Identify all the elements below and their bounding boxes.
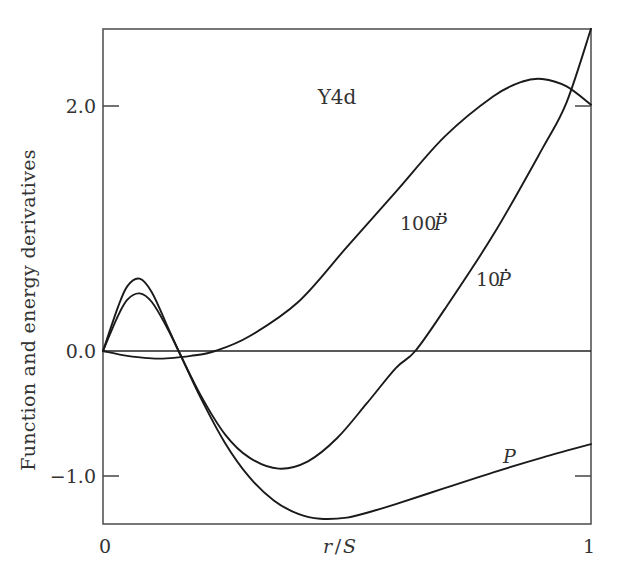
double-dot-2	[444, 213, 447, 216]
single-dot	[505, 269, 508, 272]
x-axis-label: r / S	[323, 535, 356, 557]
chart-canvas: 2.0 0.0 −1.0 0 1 r / S Y4d 100 P 10 P P	[0, 0, 626, 580]
label-10Pdot-num: 10	[476, 268, 500, 290]
label-100Pddot-var: P	[433, 212, 448, 234]
y-axis-label: Function and energy derivatives	[17, 100, 41, 520]
label-100Pddot-num: 100	[400, 212, 436, 234]
label-P: P	[502, 445, 517, 467]
ytick-label-0: 0.0	[66, 340, 96, 362]
ytick-label-m1: −1.0	[50, 465, 96, 487]
curve-P	[103, 293, 591, 519]
chart-title: Y4d	[317, 85, 357, 109]
x-axis-label-r: r	[323, 535, 334, 557]
xtick-label-1: 1	[583, 535, 595, 557]
label-10Pdot: 10 P	[476, 268, 512, 290]
double-dot-1	[439, 213, 442, 216]
curve-100Pddot	[103, 79, 591, 359]
label-100Pddot: 100 P	[400, 212, 448, 234]
x-axis-label-S: S	[343, 535, 356, 557]
ytick-label-2: 2.0	[66, 95, 96, 117]
label-10Pdot-var: P	[497, 268, 512, 290]
xtick-label-0: 0	[99, 535, 111, 557]
x-axis-label-slash: /	[335, 535, 342, 557]
